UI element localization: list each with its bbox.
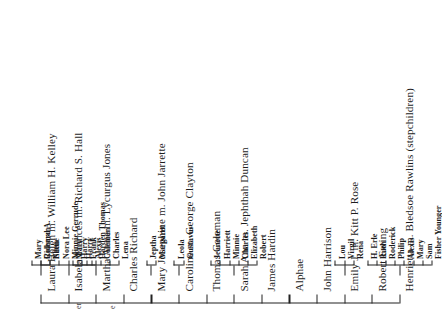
bracket-spine	[72, 264, 118, 265]
sibling-entry: James Hardin	[265, 229, 276, 291]
child-connector	[183, 261, 184, 266]
child-connector	[210, 261, 211, 266]
child-entry: H. Erle	[370, 233, 378, 258]
child-entry: Gustavus	[186, 226, 194, 259]
child-entry: Virgil	[347, 238, 355, 258]
spine-tick	[150, 294, 151, 303]
spine-tick	[399, 294, 400, 303]
sibling-entry: Mary Josephine m. John Jarrette	[155, 143, 166, 291]
child-connector	[173, 261, 174, 266]
child-connector	[403, 261, 404, 266]
spine-tick	[95, 294, 96, 303]
child-connector	[68, 261, 69, 266]
child-connector	[31, 261, 32, 266]
spine-tick	[233, 294, 234, 303]
child-entry: Fisher Younger	[434, 205, 442, 258]
child-entry: Minnie	[232, 233, 240, 258]
child-connector	[49, 261, 50, 266]
child-entry: Lou	[338, 244, 346, 258]
child-connector	[229, 261, 230, 266]
child-entry: Coleman	[103, 227, 111, 258]
sibling-entry: John Harrison	[321, 227, 332, 291]
sibling-entry: Sarah Ann m. Jephthah Duncan	[238, 147, 249, 291]
spine-tick	[316, 294, 317, 303]
child-connector	[385, 261, 386, 266]
spine-tick	[261, 294, 262, 303]
child-entry: Sam	[425, 243, 433, 258]
sibling-entry: Alphae	[293, 258, 304, 291]
child-entry: Roderick	[388, 226, 396, 258]
spine-tick	[206, 294, 207, 303]
child-entry: Alexis	[407, 237, 415, 258]
child-connector	[256, 261, 257, 266]
child-connector	[155, 261, 156, 266]
child-connector	[394, 261, 395, 266]
child-entry: Philip	[397, 238, 405, 259]
bracket-spine	[210, 264, 256, 265]
bracket-stem	[150, 265, 151, 275]
child-connector	[353, 261, 354, 266]
sibling-entry: Martha Anne m. Lycurgus Jones	[100, 143, 111, 291]
child-connector	[219, 261, 220, 266]
child-entry: Richard A.	[43, 220, 51, 258]
child-connector	[376, 261, 377, 266]
spine-tick	[344, 294, 345, 303]
child-entry: Nora Lee	[62, 226, 70, 259]
bracket-stem	[233, 265, 234, 275]
child-connector	[422, 261, 423, 266]
child-entry: Harry	[85, 237, 93, 259]
child-connector	[81, 261, 82, 266]
child-entry: Harriett	[223, 229, 231, 258]
child-entry: Mary	[34, 239, 42, 259]
child-entry: Charles	[241, 231, 249, 258]
spine-tick	[68, 294, 69, 303]
child-connector	[238, 261, 239, 266]
child-entry: Leola	[177, 239, 185, 259]
spine-tick	[178, 294, 179, 303]
bracket-stem	[95, 265, 96, 275]
bracket-stem	[40, 265, 41, 275]
child-connector	[334, 261, 335, 266]
bracket-stem	[68, 265, 69, 275]
child-connector	[109, 261, 110, 266]
child-entry: Mary	[416, 239, 424, 259]
child-connector	[118, 261, 119, 266]
child-entry: Charles	[112, 231, 120, 258]
child-connector	[100, 261, 101, 266]
child-connector	[247, 261, 248, 266]
spine-tick	[371, 294, 372, 303]
spine-tick	[40, 294, 41, 303]
sibling-entry: Laura Helen m. William H. Kelley	[45, 133, 56, 291]
child-entry: Alexis	[94, 237, 102, 258]
child-entry: Mary	[75, 239, 83, 259]
stray-mark-2: e	[108, 305, 117, 309]
bracket-stem	[344, 265, 345, 275]
child-entry: Ruth	[379, 241, 387, 259]
bracket-stem	[178, 265, 179, 275]
bracket-stem	[399, 265, 400, 275]
child-entry: Rena	[356, 240, 364, 258]
spine-tick	[288, 294, 289, 303]
child-entry: Nettie	[52, 238, 60, 259]
child-connector	[91, 261, 92, 266]
child-connector	[72, 261, 73, 266]
child-connector	[58, 261, 59, 266]
sibling-entry: Emily J. m. Kitt P. Rose	[348, 181, 359, 291]
child-entry: Jeanette	[213, 229, 221, 258]
sibling-entry: Charles Richard	[127, 217, 138, 291]
spine-tick	[123, 294, 124, 303]
child-entry: Elizabeth	[250, 225, 258, 258]
child-connector	[344, 261, 345, 266]
stray-mark-1: er	[74, 303, 83, 309]
child-entry: Margaret	[158, 225, 166, 259]
child-connector	[146, 261, 147, 266]
child-connector	[40, 261, 41, 266]
child-entry: Jeptha	[149, 235, 157, 259]
child-connector	[413, 261, 414, 266]
child-connector	[367, 261, 368, 266]
child-connector	[431, 261, 432, 266]
